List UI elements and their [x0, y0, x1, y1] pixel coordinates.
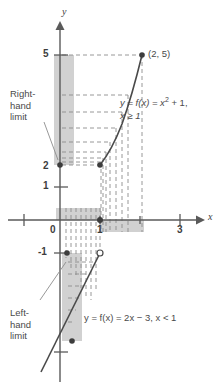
point-1-2-closed: [97, 162, 103, 168]
parabola-domain-label: x ≥ 1: [120, 110, 141, 121]
line-equation-label: y = f(x) = 2x − 3, x < 1: [84, 312, 176, 323]
limit-graph-figure: y x 5 1 -1 0 1 3 2 Right- hand limit Lef…: [0, 0, 220, 388]
point-2-5-marker: [139, 52, 145, 58]
graph-canvas: [0, 0, 220, 388]
right-hand-limit-shade: [54, 55, 74, 165]
y-tick-label-1: 1: [43, 180, 49, 191]
point-1-minus1-open: [97, 250, 103, 256]
parabola-eq-part1: y = f(x) = x: [120, 97, 165, 108]
point-y-minus1-marker: [64, 250, 70, 256]
point-2-5-label: (2, 5): [148, 48, 170, 59]
y-tick-label-minus1: -1: [38, 246, 47, 257]
x-axis-arrow: [196, 216, 205, 225]
point-y2-marker: [57, 162, 63, 168]
x-tick-label-3: 3: [177, 224, 183, 235]
right-hand-limit-annotation: Right- hand limit: [10, 88, 35, 123]
parabola-eq-part2: + 1,: [169, 97, 188, 108]
point-origin-approach: [97, 217, 103, 223]
y-tick-label-5: 5: [43, 48, 49, 59]
y-axis-arrow: [56, 21, 65, 30]
x-tick-label-1: 1: [97, 224, 103, 235]
point-line-lower-marker: [69, 338, 75, 344]
x-axis-label: x: [208, 211, 212, 222]
y-axis-label: y: [62, 6, 66, 17]
left-hand-limit-annotation: Left- hand limit: [10, 307, 31, 342]
x-approach-shade-left: [56, 208, 101, 220]
y-tick-label-2: 2: [43, 160, 49, 171]
parabola-equation-label: y = f(x) = x2 + 1,: [120, 96, 188, 108]
x-tick-label-0: 0: [50, 224, 56, 235]
